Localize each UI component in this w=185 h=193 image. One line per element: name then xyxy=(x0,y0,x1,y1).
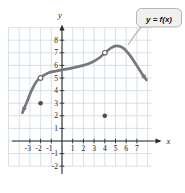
y-tick-label: 5 xyxy=(54,74,58,83)
x-tick-label: -2 xyxy=(35,144,41,153)
x-tick-label: 5 xyxy=(114,144,118,153)
y-tick-label: 7 xyxy=(54,48,58,57)
open-point xyxy=(103,51,108,56)
x-tick-label: 1 xyxy=(71,144,75,153)
y-tick-label: 2 xyxy=(54,111,58,120)
y-tick-label: -2 xyxy=(52,162,58,171)
y-tick-label: 6 xyxy=(54,61,58,70)
x-tick-label: 3 xyxy=(92,144,96,153)
figure: xy-3-2-11234567-2-112345678y = f(x) xyxy=(0,0,185,193)
x-tick-label: -3 xyxy=(25,144,31,153)
function-graph: xy-3-2-11234567-2-112345678y = f(x) xyxy=(0,0,185,193)
y-tick-label: 3 xyxy=(54,99,58,108)
x-axis-arrow xyxy=(156,138,162,143)
x-axis-letter: x xyxy=(166,136,171,146)
callout-tail xyxy=(128,26,142,45)
y-tick-label: 8 xyxy=(54,36,58,45)
closed-point xyxy=(103,114,108,119)
open-point xyxy=(38,76,43,81)
x-tick-label: 2 xyxy=(82,144,86,153)
x-tick-label: 6 xyxy=(124,144,128,153)
x-tick-label: 7 xyxy=(135,144,139,153)
closed-point xyxy=(38,101,43,106)
x-tick-label: 4 xyxy=(103,144,107,153)
y-tick-label: -1 xyxy=(52,149,58,158)
y-axis-letter: y xyxy=(57,10,62,20)
callout-label: y = f(x) xyxy=(145,15,172,24)
y-tick-label: 1 xyxy=(54,124,58,133)
y-tick-label: 4 xyxy=(54,86,58,95)
